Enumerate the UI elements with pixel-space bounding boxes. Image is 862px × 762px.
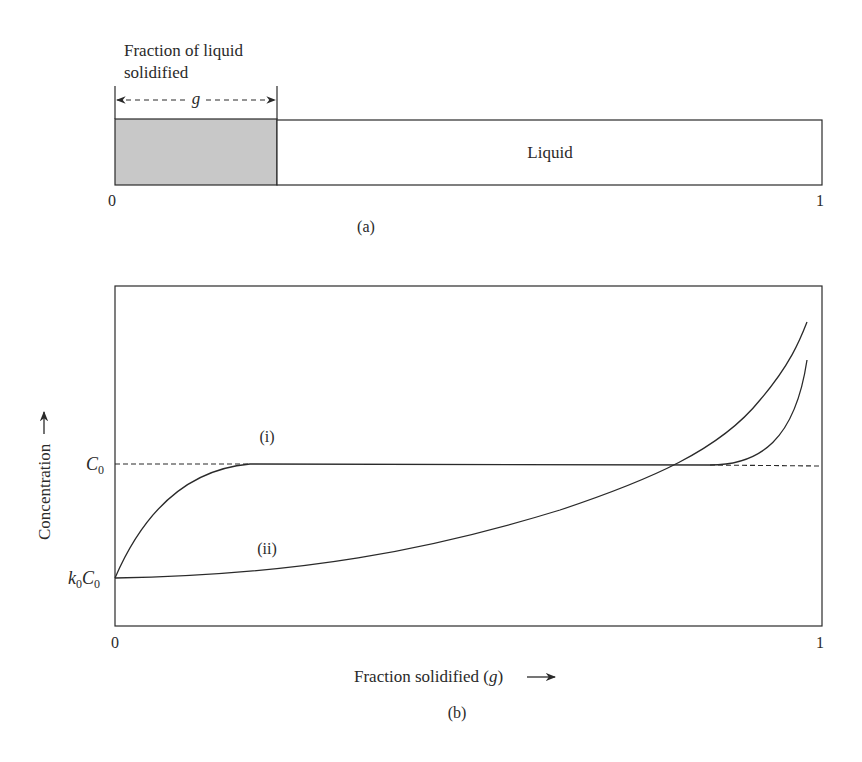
y-axis-label: Concentration <box>35 443 54 540</box>
axis-a-start: 0 <box>108 192 116 209</box>
curve-i <box>115 360 807 578</box>
figure-canvas: Fraction of liquid solidified g Liquid 0… <box>0 0 862 762</box>
fraction-label-line1: Fraction of liquid <box>124 41 243 60</box>
curve-ii-label: (ii) <box>257 540 277 558</box>
liquid-label: Liquid <box>527 143 573 162</box>
y-axis-label-group: Concentration <box>35 412 54 540</box>
x-tick-0: 0 <box>111 634 119 651</box>
solid-region <box>115 119 277 185</box>
caption-b: (b) <box>448 704 467 722</box>
x-axis-label: Fraction solidified (g) <box>354 667 503 686</box>
x-tick-1: 1 <box>816 634 824 651</box>
plot-frame <box>115 286 822 626</box>
caption-a: (a) <box>357 218 375 236</box>
curve-i-label: (i) <box>259 428 274 446</box>
curve-ii <box>115 322 807 578</box>
panel-a: Fraction of liquid solidified g Liquid 0… <box>108 41 824 236</box>
k0c0-label: k0C0 <box>68 568 100 591</box>
c0-label: C0 <box>86 454 104 477</box>
panel-b: (i) (ii) C0 k0C0 0 1 Concentration Fract… <box>35 286 824 722</box>
dimension-symbol-g: g <box>192 89 201 108</box>
c0-reference-dashed-right <box>710 465 822 466</box>
fraction-label-line2: solidified <box>124 63 189 82</box>
axis-a-end: 1 <box>816 192 824 209</box>
